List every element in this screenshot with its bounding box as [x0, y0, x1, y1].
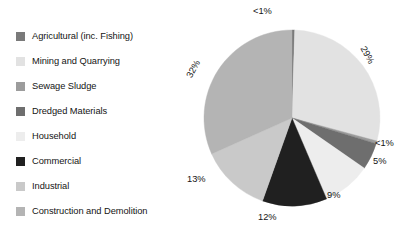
pie-label-agricultural: <1%: [253, 6, 272, 16]
legend-label-commercial: Commercial: [32, 156, 81, 167]
legend-swatch-commercial: [16, 157, 25, 166]
legend-label-mining-and-quarrying: Mining and Quarrying: [32, 56, 120, 67]
legend-item-dredged-materials: Dredged Materials: [16, 105, 191, 117]
pie-slice-group: [204, 30, 380, 206]
legend-label-dredged-materials: Dredged Materials: [32, 106, 107, 117]
legend-swatch-construction-and-demolition: [16, 207, 25, 216]
legend-item-commercial: Commercial: [16, 155, 191, 167]
legend-item-construction-and-demolition: Construction and Demolition: [16, 205, 191, 217]
legend-label-industrial: Industrial: [32, 181, 69, 192]
legend-item-mining-and-quarrying: Mining and Quarrying: [16, 55, 191, 67]
pie-label-dredged-materials: 5%: [373, 156, 386, 166]
pie-label-commercial: 12%: [258, 212, 277, 222]
legend-label-agricultural: Agricultural (inc. Fishing): [32, 31, 133, 42]
legend-item-household: Household: [16, 130, 191, 142]
legend-swatch-household: [16, 132, 25, 141]
pie-chart: <1% 29% <1% 5% 9% 12% 13% 32%: [175, 0, 411, 234]
legend-swatch-agricultural: [16, 32, 25, 41]
legend-swatch-industrial: [16, 182, 25, 191]
legend-swatch-dredged-materials: [16, 107, 25, 116]
legend-swatch-mining-and-quarrying: [16, 57, 25, 66]
pie-label-industrial: 13%: [187, 174, 206, 184]
chart-legend: Agricultural (inc. Fishing) Mining and Q…: [16, 30, 191, 217]
legend-item-sewage-sludge: Sewage Sludge: [16, 80, 191, 92]
legend-label-construction-and-demolition: Construction and Demolition: [32, 206, 147, 217]
legend-label-sewage-sludge: Sewage Sludge: [32, 81, 96, 92]
pie-chart-svg: [175, 0, 411, 234]
legend-swatch-sewage-sludge: [16, 82, 25, 91]
legend-item-industrial: Industrial: [16, 180, 191, 192]
legend-item-agricultural: Agricultural (inc. Fishing): [16, 30, 191, 42]
pie-label-sewage-sludge: <1%: [375, 138, 394, 148]
chart-page: Agricultural (inc. Fishing) Mining and Q…: [0, 0, 411, 234]
legend-label-household: Household: [32, 131, 76, 142]
pie-label-household: 9%: [327, 190, 340, 200]
